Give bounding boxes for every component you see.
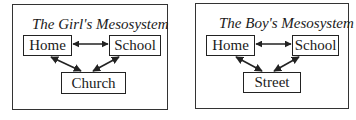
girls-home-node: Home: [23, 35, 72, 56]
girls-school-node: School: [109, 35, 161, 56]
boys-school-node: School: [292, 35, 339, 56]
boys-home-node: Home: [206, 35, 255, 56]
boys-street-node: Street: [243, 72, 301, 93]
boys-mesosystem-title: The Boy's Mesosystem: [219, 16, 354, 31]
girls-church-node: Church: [61, 72, 126, 94]
girls-mesosystem-title: The Girl's Mesosystem: [32, 17, 169, 32]
